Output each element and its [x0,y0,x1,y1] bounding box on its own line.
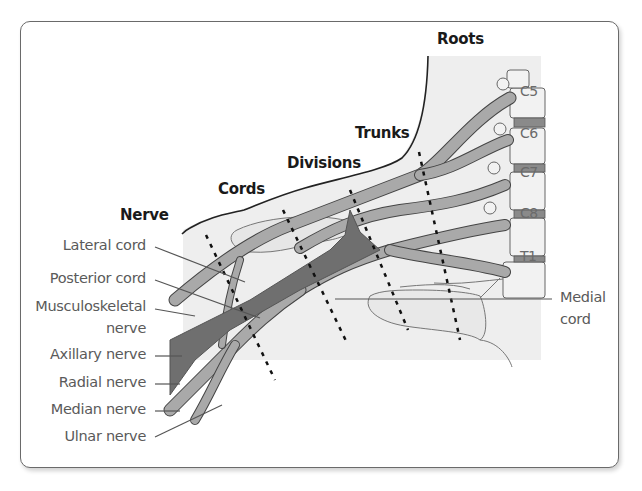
label-medial: Medial [560,289,606,305]
label-lateral-cord: Lateral cord [63,237,146,253]
label-radial-nerve: Radial nerve [59,374,146,390]
vertebra-label-c5: C5 [520,83,538,99]
vertebra-label-t1: T1 [520,248,536,264]
vertebra-label-c6: C6 [520,125,538,141]
label-median-nerve: Median nerve [51,401,146,417]
vertebra-label-c7: C7 [520,164,538,180]
header-cords: Cords [218,180,265,198]
label-musculoskeletal-nerve: nerve [106,320,146,336]
label-axillary-nerve: Axillary nerve [50,346,146,362]
label-musculoskeletal: Musculoskeletal [35,298,146,314]
label-medial-cord: cord [560,311,591,327]
header-roots: Roots [437,30,484,48]
header-trunks: Trunks [355,124,409,142]
label-posterior-cord: Posterior cord [50,270,146,286]
label-ulnar-nerve: Ulnar nerve [64,428,146,444]
header-nerve: Nerve [120,206,169,224]
header-divisions: Divisions [287,154,361,172]
vertebra-label-c8: C8 [520,205,538,221]
